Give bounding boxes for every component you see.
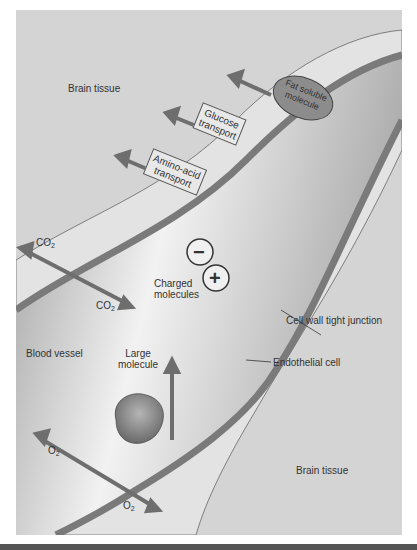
label-blood-vessel: Blood vessel [26, 348, 83, 359]
label-o2-bottom: O2 [123, 500, 135, 514]
label-brain-tissue-top: Brain tissue [68, 83, 120, 94]
label-co2-top: CO2 [36, 237, 55, 251]
plus-sign: + [209, 268, 221, 288]
minus-sign: − [193, 242, 205, 262]
diagram-frame: Brain tissue Brain tissue Blood vessel F… [16, 10, 402, 535]
label-o2-top: O2 [48, 445, 60, 459]
bottom-strip [0, 544, 417, 550]
label-tight-junction: Cell wall tight junction [286, 315, 382, 326]
label-charged-molecules: Charged molecules [154, 278, 199, 300]
label-co2-bottom: CO2 [96, 300, 115, 314]
label-endothelial-cell: Endothelial cell [273, 357, 340, 368]
label-large-molecule: Large molecule [118, 348, 158, 370]
label-brain-tissue-bottom: Brain tissue [296, 465, 348, 476]
